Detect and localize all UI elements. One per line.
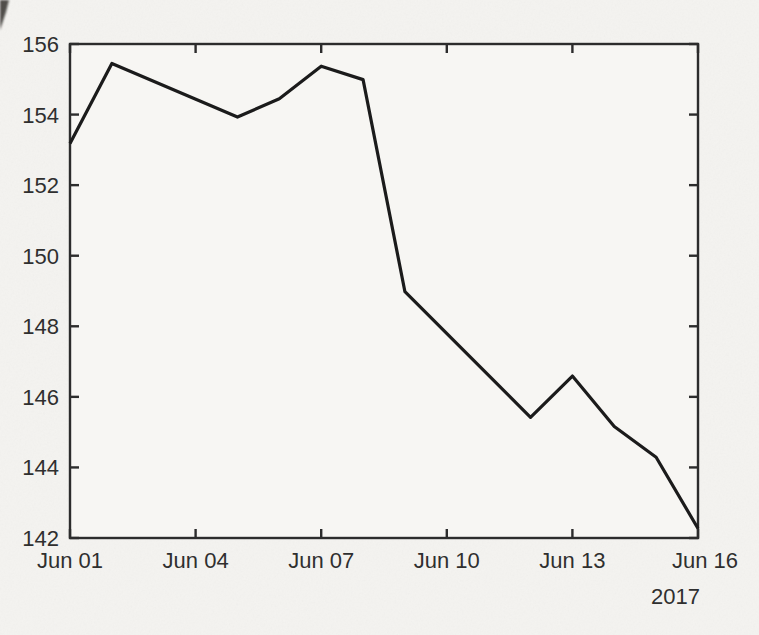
page-background: 142144146148150152154156Jun 01Jun 04Jun … [0, 0, 759, 635]
x-tick-label: Jun 01 [37, 548, 103, 573]
x-tick-label: Jun 10 [414, 548, 480, 573]
y-tick-label: 144 [22, 455, 59, 480]
y-tick-label: 154 [22, 103, 59, 128]
year-label: 2017 [651, 584, 700, 609]
x-tick-label: Jun 16 [672, 548, 738, 573]
plot-area [70, 44, 698, 538]
y-tick-label: 148 [22, 314, 59, 339]
y-tick-label: 152 [22, 173, 59, 198]
x-tick-label: Jun 07 [288, 548, 354, 573]
y-tick-label: 156 [22, 32, 59, 57]
x-tick-label: Jun 04 [163, 548, 229, 573]
price-chart: 142144146148150152154156Jun 01Jun 04Jun … [0, 0, 759, 635]
y-tick-label: 146 [22, 385, 59, 410]
x-tick-label: Jun 13 [539, 548, 605, 573]
y-tick-label: 150 [22, 244, 59, 269]
